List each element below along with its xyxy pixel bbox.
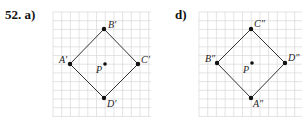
vertex-label: D′ — [106, 98, 117, 109]
vertex-point — [136, 62, 140, 66]
vertex-label: A′ — [58, 54, 68, 65]
vertex-label: D″ — [287, 52, 300, 63]
vertex-point — [102, 27, 106, 31]
vertex-point — [68, 62, 72, 66]
center-point — [250, 61, 254, 65]
center-label: P — [242, 64, 249, 75]
vertex-label: C″ — [254, 18, 266, 29]
vertex-point — [102, 96, 106, 100]
figures: A′B′C′D′PB″C″D″A″P — [0, 0, 302, 128]
vertex-label: B′ — [108, 19, 117, 30]
vertex-label: B″ — [205, 53, 216, 64]
center-point — [103, 62, 107, 66]
vertex-point — [215, 61, 219, 65]
center-label: P — [95, 64, 102, 75]
vertex-point — [283, 61, 287, 65]
vertex-label: C′ — [141, 54, 151, 65]
vertex-label: A″ — [252, 98, 264, 109]
vertex-point — [249, 27, 253, 31]
